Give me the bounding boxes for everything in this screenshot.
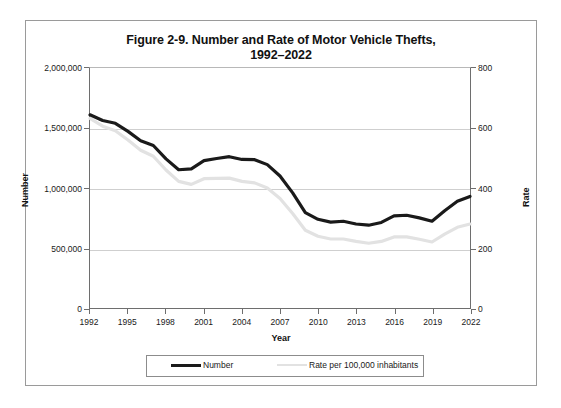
x-axis-tick-mark [433,309,434,314]
y-axis-left-tick-label: 0 [77,304,82,314]
number-line [90,115,470,225]
x-axis-tick-mark [280,309,281,314]
y-axis-right-tick-label: 400 [478,184,492,194]
chart-title-line-1: Figure 2-9. Number and Rate of Motor Veh… [26,33,536,48]
legend-label-rate: Rate per 100,000 inhabitants [309,360,418,370]
data-lines-svg [90,68,470,308]
y-axis-right-tick-label: 600 [478,123,492,133]
y-axis-left-tick-label: 1,000,000 [44,184,82,194]
legend-swatch-number-icon [171,364,201,367]
y-axis-right-title: Rate [521,187,531,207]
x-axis-tick-label: 2007 [271,317,290,327]
legend-item-number: Number [171,360,233,370]
legend-item-rate: Rate per 100,000 inhabitants [277,360,418,370]
x-axis-tick-label: 2019 [423,317,442,327]
y-axis-right-tick-mark [471,67,476,68]
y-axis-right-tick-label: 200 [478,244,492,254]
x-axis-tick-mark [395,309,396,314]
x-axis-tick-label: 2010 [309,317,328,327]
x-axis-tick-label: 1998 [156,317,175,327]
y-axis-right-tick-mark [471,128,476,129]
x-axis-tick-label: 2001 [194,317,213,327]
x-axis-tick-label: 1995 [118,317,137,327]
x-axis-tick-mark [356,309,357,314]
figure-frame: Figure 2-9. Number and Rate of Motor Veh… [25,20,537,386]
y-axis-right-tick-mark [471,249,476,250]
chart-title-line-2: 1992–2022 [26,48,536,63]
legend: Number Rate per 100,000 inhabitants [146,355,424,377]
y-axis-left-tick-label: 500,000 [51,244,82,254]
y-axis-right-tick-label: 800 [478,63,492,73]
x-axis-tick-label: 2022 [462,317,481,327]
x-axis-tick-label: 2013 [347,317,366,327]
y-axis-right-tick-mark [471,188,476,189]
y-axis-left-tick-label: 1,500,000 [44,123,82,133]
x-axis-tick-mark [89,309,90,314]
x-axis-tick-label: 2016 [385,317,404,327]
x-axis-tick-mark [318,309,319,314]
x-axis-tick-mark [204,309,205,314]
legend-label-number: Number [203,360,233,370]
legend-swatch-rate-icon [277,364,307,366]
plot-area [89,67,471,309]
x-axis-tick-mark [242,309,243,314]
rate-line [90,118,470,243]
x-axis-tick-label: 1992 [80,317,99,327]
chart-title: Figure 2-9. Number and Rate of Motor Veh… [26,33,536,63]
x-axis-tick-mark [165,309,166,314]
x-axis-title: Year [26,333,536,343]
x-axis-tick-mark [127,309,128,314]
x-axis-tick-label: 2004 [232,317,251,327]
y-axis-left-tick-label: 2,000,000 [44,63,82,73]
x-axis-tick-mark [471,309,472,314]
y-axis-right-tick-label: 0 [478,304,483,314]
y-axis-left-title: Number [20,173,30,207]
